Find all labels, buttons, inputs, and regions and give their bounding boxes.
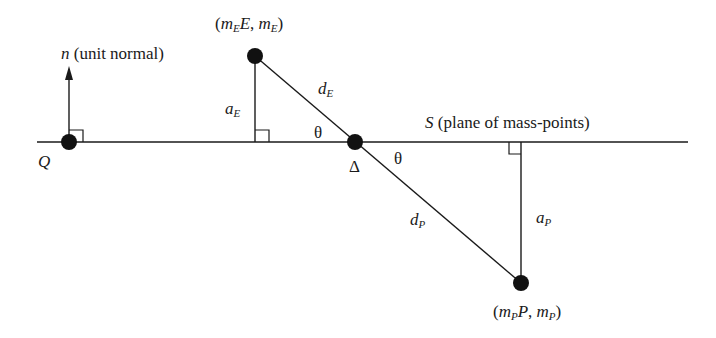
q-label: Q xyxy=(38,153,50,170)
delta-label: Δ xyxy=(349,158,360,175)
m-sub: E xyxy=(233,22,240,34)
arrow-head-icon xyxy=(65,66,73,80)
m-sub-2: P xyxy=(549,310,556,322)
normal-label: n (unit normal) xyxy=(61,45,164,62)
a-sub: E xyxy=(234,107,241,119)
e-var: E xyxy=(240,14,250,33)
m-var-2: m xyxy=(259,14,271,33)
right-angle-e xyxy=(255,130,269,142)
d-sub: E xyxy=(327,87,334,99)
a-e-label: aE xyxy=(225,100,240,119)
point-p xyxy=(513,275,529,291)
m-var: m xyxy=(499,302,511,321)
paren-close: ) xyxy=(278,14,284,33)
sep: , xyxy=(528,302,537,321)
plane-text: (plane of mass-points) xyxy=(438,113,590,132)
d-p-label: dP xyxy=(410,211,425,230)
p-coord-label: (mPP, mP) xyxy=(493,303,561,322)
m-var-2: m xyxy=(537,302,549,321)
normal-var: n xyxy=(61,44,70,63)
d-var: d xyxy=(318,79,327,98)
a-sub: P xyxy=(545,216,552,228)
a-var: a xyxy=(536,208,545,227)
d-e-label: dE xyxy=(318,80,333,99)
paren-close: ) xyxy=(556,302,562,321)
m-var: m xyxy=(221,14,233,33)
plane-label: S (plane of mass-points) xyxy=(425,114,590,131)
point-delta xyxy=(347,134,363,150)
plane-var: S xyxy=(425,113,434,132)
right-angle-p xyxy=(509,142,521,154)
d-var: d xyxy=(410,210,419,229)
a-var: a xyxy=(225,99,234,118)
d-line xyxy=(255,56,521,283)
m-sub: P xyxy=(511,310,518,322)
sep: , xyxy=(250,14,259,33)
d-sub: P xyxy=(419,218,426,230)
m-sub-2: E xyxy=(271,22,278,34)
normal-text: (unit normal) xyxy=(74,44,164,63)
point-q xyxy=(61,134,77,150)
theta-left-label: θ xyxy=(314,124,322,141)
e-coord-label: (mEE, mE) xyxy=(215,15,283,34)
point-e xyxy=(247,48,263,64)
a-p-label: aP xyxy=(536,209,551,228)
p-var: P xyxy=(518,302,528,321)
theta-right-label: θ xyxy=(394,150,402,167)
